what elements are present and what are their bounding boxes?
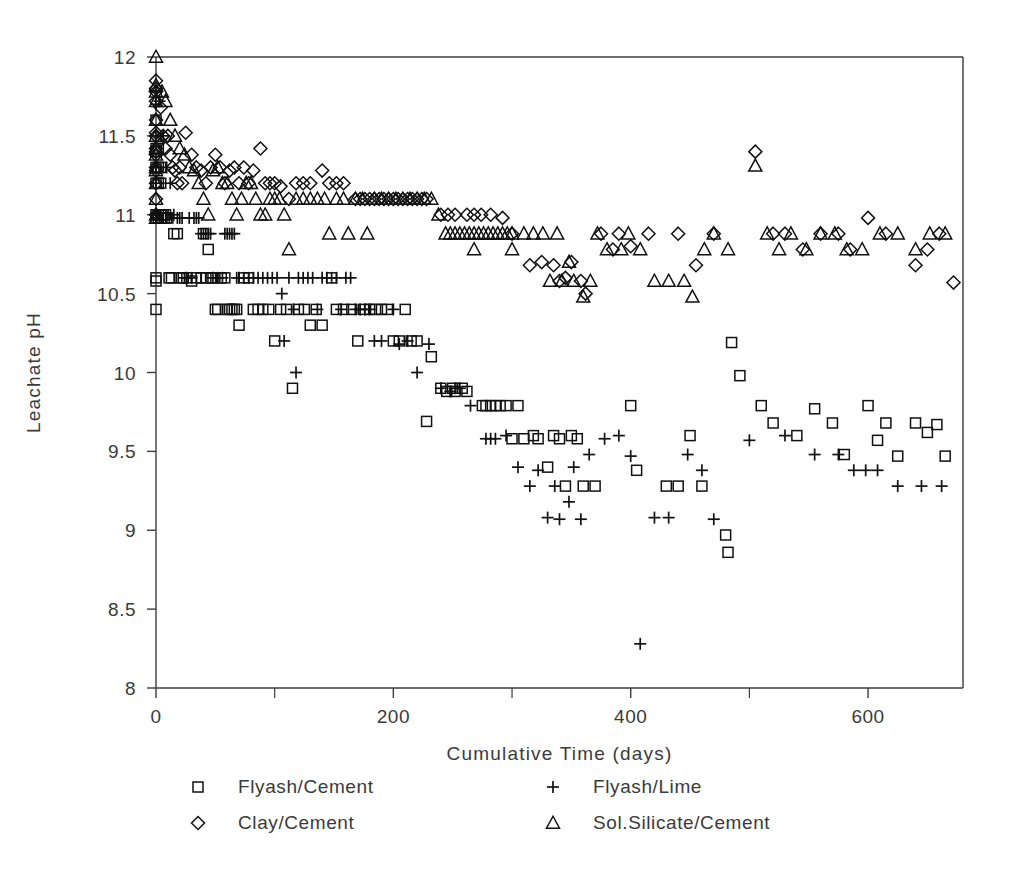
data-point <box>685 431 695 441</box>
data-point <box>375 335 387 347</box>
y-tick-label: 9 <box>125 520 136 541</box>
data-point <box>176 177 189 190</box>
data-point <box>549 431 559 441</box>
data-point <box>708 513 720 525</box>
data-point <box>590 481 600 491</box>
series-diamond <box>150 74 961 300</box>
data-point <box>197 192 210 204</box>
y-tick-label: 11.5 <box>98 126 136 147</box>
data-point <box>209 148 222 161</box>
data-point <box>697 481 707 491</box>
legend-marker-diamond <box>192 817 205 830</box>
data-point <box>727 338 737 348</box>
legend-entry: Flyash/Cement <box>193 776 374 797</box>
x-tick-label: 0 <box>150 706 161 727</box>
data-point <box>773 243 786 255</box>
data-point <box>648 512 660 524</box>
data-point <box>547 259 560 272</box>
data-point <box>756 401 766 411</box>
data-point <box>435 382 447 394</box>
data-point <box>542 512 554 524</box>
data-point <box>464 400 476 412</box>
data-point <box>832 449 844 461</box>
data-point <box>551 227 564 239</box>
legend-label: Flyash/Lime <box>593 776 702 797</box>
data-point <box>278 208 291 220</box>
data-markers <box>150 50 961 650</box>
data-point <box>827 418 837 428</box>
data-point <box>305 320 315 330</box>
data-point <box>911 418 921 428</box>
data-point <box>230 208 243 220</box>
data-point <box>613 430 625 442</box>
legend-label: Flyash/Cement <box>238 776 374 797</box>
data-point <box>468 243 481 255</box>
data-point <box>921 243 934 256</box>
y-tick-label: 10.5 <box>97 284 136 305</box>
data-point <box>316 164 329 177</box>
x-axis-title: Cumulative Time (days) <box>447 743 673 764</box>
data-point <box>523 259 536 272</box>
legend-marker-triangle <box>547 816 560 828</box>
data-point <box>672 227 685 240</box>
legend-marker-plus <box>547 781 559 793</box>
data-point <box>172 229 182 239</box>
axes <box>147 57 963 698</box>
data-point <box>387 303 399 315</box>
data-point <box>814 227 827 239</box>
data-point <box>335 303 347 315</box>
series-plus <box>150 86 948 650</box>
data-point <box>249 192 262 204</box>
data-point <box>290 367 302 379</box>
data-point <box>909 243 922 255</box>
data-point <box>234 320 244 330</box>
data-point <box>673 481 683 491</box>
data-point <box>860 464 872 476</box>
data-point <box>779 430 791 442</box>
plot-canvas: 88.599.51010.51111.5120200400600Cumulati… <box>0 0 1017 878</box>
data-point <box>881 418 891 428</box>
data-point <box>393 338 405 350</box>
data-point <box>625 450 637 462</box>
data-point <box>179 126 192 139</box>
data-point <box>682 449 694 461</box>
data-point <box>743 434 755 446</box>
data-point <box>572 434 582 444</box>
data-point <box>353 336 363 346</box>
data-point <box>689 259 702 272</box>
data-point <box>259 177 272 190</box>
data-point <box>578 481 588 491</box>
data-point <box>323 227 336 239</box>
legend: Flyash/CementFlyash/LimeClay/CementSol.S… <box>192 776 771 833</box>
data-point <box>560 481 570 491</box>
data-point <box>749 145 762 158</box>
data-point <box>749 159 762 171</box>
data-point <box>936 480 948 492</box>
y-tick-label: 11 <box>115 205 136 226</box>
data-point <box>663 512 675 524</box>
legend-entry: Clay/Cement <box>192 812 355 833</box>
data-point <box>872 464 884 476</box>
data-point <box>554 513 566 525</box>
data-point <box>848 464 860 476</box>
data-point <box>768 418 778 428</box>
data-point <box>287 383 297 393</box>
data-point <box>276 304 286 314</box>
legend-label: Clay/Cement <box>238 812 355 833</box>
data-point <box>723 547 733 557</box>
data-point <box>555 434 565 444</box>
data-point <box>361 227 374 239</box>
y-tick-label: 8.5 <box>108 599 136 620</box>
data-point <box>512 461 524 473</box>
data-point <box>735 371 745 381</box>
data-point <box>810 404 820 414</box>
data-point <box>213 304 223 314</box>
data-point <box>568 461 580 473</box>
data-point <box>500 430 512 442</box>
data-point <box>519 434 529 444</box>
data-point <box>722 243 735 255</box>
data-point <box>662 274 675 286</box>
data-point <box>863 401 873 411</box>
data-point <box>376 304 386 314</box>
data-point <box>535 256 548 269</box>
